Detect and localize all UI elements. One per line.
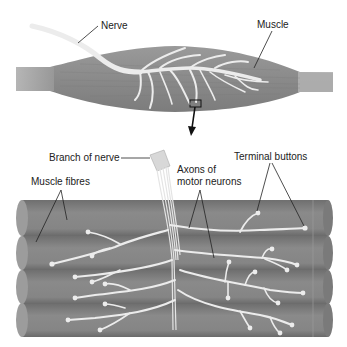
label-branch-of-nerve: Branch of nerve (49, 152, 120, 163)
terminal-button (290, 323, 295, 328)
terminal-button (98, 328, 103, 333)
terminal-button (86, 230, 91, 235)
diagram-canvas: Nerve Muscle (0, 0, 347, 347)
tendon-left (16, 67, 54, 91)
terminal-button (66, 318, 71, 323)
muscle (16, 46, 333, 112)
label-axons-line1: Axons of (177, 164, 216, 175)
terminal-button (227, 260, 232, 265)
terminal-button (103, 282, 108, 287)
terminal-button (295, 263, 300, 268)
terminal-button (276, 301, 281, 306)
leader-nerve (78, 26, 98, 43)
muscle-fibre (16, 303, 333, 337)
terminal-button (278, 331, 283, 336)
terminal-button (256, 211, 261, 216)
terminal-button (270, 247, 275, 252)
tendon-right (298, 72, 333, 92)
terminal-button (90, 254, 95, 259)
label-terminal-buttons: Terminal buttons (234, 151, 307, 162)
label-axons-line2: motor neurons (177, 176, 241, 187)
terminal-button (301, 291, 306, 296)
terminal-button (226, 296, 231, 301)
muscle-body (16, 46, 333, 112)
terminal-button (73, 275, 78, 280)
terminal-button (253, 270, 258, 275)
label-muscle: Muscle (257, 19, 289, 30)
terminal-button (90, 280, 95, 285)
terminal-button (285, 268, 290, 273)
label-nerve: Nerve (101, 20, 128, 31)
terminal-button (49, 261, 54, 266)
terminal-button (103, 302, 108, 307)
label-muscle-fibres: Muscle fibres (31, 176, 90, 187)
terminal-button (248, 326, 253, 331)
terminal-button (73, 296, 78, 301)
terminal-button (302, 225, 307, 230)
